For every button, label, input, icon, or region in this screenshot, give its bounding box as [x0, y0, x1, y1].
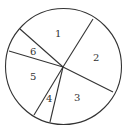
slice-label-2: 2 [93, 52, 99, 63]
slice-label-6: 6 [30, 46, 36, 57]
slice-label-1: 1 [55, 28, 61, 39]
slice-label-5: 5 [30, 71, 36, 82]
pie-chart: 1 2 3 4 5 6 [0, 0, 127, 130]
slice-label-3: 3 [74, 92, 80, 103]
slice-label-4: 4 [46, 93, 52, 104]
